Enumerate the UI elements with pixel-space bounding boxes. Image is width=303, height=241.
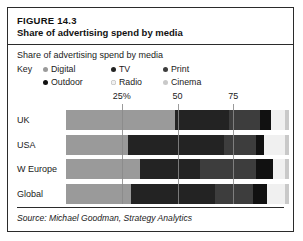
chart-plot-area: 25%5075UKUSAW EuropeGlobal (17, 91, 284, 207)
bar-segment-tv (140, 159, 200, 179)
figure-card: FIGURE 14.3 Share of advertising spend b… (7, 7, 294, 232)
bar-segment-digital (66, 110, 175, 130)
x-axis-tick-label: 75 (228, 91, 238, 101)
legend-item-label: Print (171, 64, 189, 74)
category-label: UK (17, 115, 30, 125)
legend-swatch-icon (111, 67, 116, 72)
bar-segment-print (224, 135, 255, 155)
bar-segment-cinema (285, 184, 289, 204)
chart-subtitle: Share of advertising spend by media (17, 49, 284, 61)
legend-swatch-icon (111, 80, 116, 85)
legend-item-label: TV (119, 64, 130, 74)
bar-segment-digital (66, 159, 140, 179)
source-note: Source: Michael Goodman, Strategy Analyt… (17, 213, 284, 224)
bar-segment-tv (128, 135, 224, 155)
bar-segment-cinema (285, 159, 289, 179)
x-axis-tick-label: 25% (113, 91, 131, 101)
figure-number-label: FIGURE 14.3 (17, 15, 284, 26)
chart-row: USA (17, 135, 284, 155)
bar-segment-print (215, 184, 253, 204)
legend-swatch-icon (43, 80, 48, 85)
legend-swatch-icon (43, 67, 48, 72)
bar-segment-outdoor (253, 184, 266, 204)
bar-segment-print (200, 159, 256, 179)
x-axis-gridline (122, 104, 123, 204)
legend-item-label: Digital (51, 64, 75, 74)
legend-swatch-icon (163, 80, 168, 85)
bar-segment-radio (271, 110, 284, 130)
bar-segment-outdoor (256, 135, 265, 155)
x-axis-gridline (178, 104, 179, 204)
legend-item-tv: TV (111, 64, 130, 74)
source-divider (17, 207, 284, 208)
bar-segment-radio (273, 159, 284, 179)
x-axis-tick-label: 50 (172, 91, 182, 101)
bar-segment-cinema (285, 110, 289, 130)
legend-item-label: Cinema (171, 77, 201, 87)
category-label: W Europe (17, 164, 57, 174)
figure-title: Share of advertising spend by media (17, 27, 284, 39)
title-divider (8, 44, 293, 45)
legend-item-cinema: Cinema (163, 77, 201, 87)
legend: Key DigitalTVPrintOutdoorRadioCinema (17, 64, 284, 90)
bar-segment-digital (66, 135, 128, 155)
category-label: USA (17, 140, 36, 150)
bar-segment-tv (175, 110, 229, 130)
bar-segment-cinema (285, 135, 289, 155)
bar-segment-outdoor (260, 110, 271, 130)
legend-key-label: Key (17, 64, 32, 74)
chart-row: UK (17, 110, 284, 130)
chart-row: W Europe (17, 159, 284, 179)
legend-item-label: Outdoor (51, 77, 83, 87)
category-label: Global (17, 189, 43, 199)
legend-swatch-icon (163, 67, 168, 72)
legend-item-digital: Digital (43, 64, 75, 74)
legend-item-print: Print (163, 64, 189, 74)
x-axis-gridline (233, 104, 234, 204)
chart-row: Global (17, 184, 284, 204)
legend-item-radio: Radio (111, 77, 142, 87)
legend-item-label: Radio (119, 77, 142, 87)
bar-segment-radio (264, 135, 284, 155)
bar-segment-radio (267, 184, 285, 204)
legend-item-outdoor: Outdoor (43, 77, 83, 87)
bar-segment-outdoor (256, 159, 274, 179)
bar-segment-tv (131, 184, 216, 204)
